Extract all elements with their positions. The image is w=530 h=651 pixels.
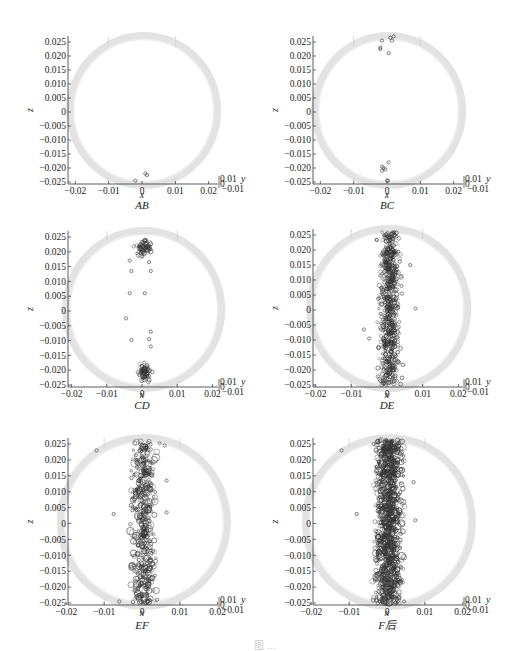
x-axis-label: x <box>384 607 390 618</box>
x-tick-label: −0.02 <box>55 607 77 617</box>
particle-marker <box>376 321 379 324</box>
z-axis-label: z <box>24 108 35 113</box>
particle-marker <box>130 269 133 272</box>
particle-marker <box>400 292 403 295</box>
y-axis-label: y <box>240 376 246 387</box>
particle-marker <box>377 283 381 287</box>
x-tick-label: 0.01 <box>417 607 434 617</box>
z-tick-label: 0.025 <box>290 37 312 47</box>
particle-marker <box>112 512 115 515</box>
y-axis-label: y <box>240 594 246 605</box>
particle-marker <box>128 582 134 588</box>
z-axis-label: z <box>269 520 280 525</box>
particle-marker <box>148 516 151 519</box>
y-depth-tick-label: −0.01 <box>467 605 489 615</box>
x-tick-label: 0.02 <box>204 389 221 399</box>
x-tick-label: 0.02 <box>445 186 462 196</box>
z-tick-label: −0.015 <box>284 149 311 159</box>
z-tick-label: −0.010 <box>284 335 311 345</box>
particle-marker <box>398 257 402 261</box>
particle-marker <box>380 169 383 172</box>
z-tick-label: 0.025 <box>45 37 67 47</box>
particle-marker <box>128 292 131 295</box>
particle-marker <box>414 307 417 310</box>
z-tick-label: 0.005 <box>290 93 312 103</box>
particle-marker <box>165 511 168 514</box>
particle-marker <box>373 540 376 543</box>
particle-marker <box>400 521 405 526</box>
cylinder-ring <box>70 36 218 186</box>
y-depth-tick-label: −0.01 <box>222 605 244 615</box>
z-axis-label: z <box>269 306 280 311</box>
z-tick-label: 0.005 <box>45 503 67 513</box>
particle-marker <box>152 533 155 536</box>
particle-marker <box>387 52 390 55</box>
z-tick-label: 0.010 <box>290 487 312 497</box>
x-tick-label: −0.01 <box>98 186 120 196</box>
z-tick-label: −0.025 <box>284 177 311 187</box>
particle-marker <box>152 512 157 517</box>
panel-de: 0.0250.0200.0150.0100.0050−0.005−0.010−0… <box>269 229 491 412</box>
panel-title: BC <box>380 199 395 211</box>
z-tick-label: 0.020 <box>45 247 67 257</box>
particle-marker <box>401 486 406 491</box>
particle-marker <box>138 362 141 365</box>
z-tick-label: 0.005 <box>45 291 67 301</box>
particle-marker <box>374 448 378 452</box>
x-tick-label: −0.02 <box>61 389 83 399</box>
x-tick-label: 0.01 <box>412 186 429 196</box>
panel-title: F后 <box>377 619 398 631</box>
particle-marker <box>143 361 146 364</box>
z-tick-label: 0 <box>61 306 66 316</box>
particle-marker <box>150 552 153 555</box>
y-axis-label: y <box>485 594 491 605</box>
particle-marker <box>368 337 371 340</box>
particle-marker <box>134 473 137 476</box>
particle-marker <box>381 278 384 281</box>
x-tick-label: −0.01 <box>340 389 362 399</box>
particle-marker <box>132 449 134 451</box>
y-depth-tick-label: −0.01 <box>467 387 489 397</box>
scatter-points <box>125 238 154 384</box>
x-tick-label: −0.01 <box>96 389 118 399</box>
particle-marker <box>397 320 400 323</box>
z-tick-label: −0.020 <box>39 163 66 173</box>
particle-marker <box>362 328 365 331</box>
z-tick-label: −0.005 <box>39 535 66 545</box>
z-tick-label: 0.020 <box>45 455 67 465</box>
particle-marker <box>378 357 381 360</box>
particle-marker <box>130 476 133 479</box>
z-tick-label: −0.005 <box>284 320 311 330</box>
z-tick-label: 0.025 <box>290 439 312 449</box>
panel-title: AB <box>134 199 149 211</box>
scatter-figure: 0.0250.0200.0150.0100.0050−0.005−0.010−0… <box>0 0 530 651</box>
x-tick-label: −0.01 <box>93 607 115 617</box>
x-tick-label: −0.02 <box>305 389 327 399</box>
particle-marker <box>402 455 405 458</box>
z-tick-label: −0.020 <box>39 582 66 592</box>
x-tick-label: 0.01 <box>169 389 186 399</box>
particle-marker <box>152 538 157 543</box>
y-axis-label: y <box>485 173 491 184</box>
particle-marker <box>400 284 403 287</box>
particle-marker <box>414 519 417 522</box>
y-axis-label: y <box>240 173 246 184</box>
z-tick-label: −0.010 <box>284 135 311 145</box>
z-tick-label: 0.025 <box>290 230 312 240</box>
particle-marker <box>376 366 380 370</box>
z-tick-label: 0.005 <box>290 290 312 300</box>
particle-marker <box>384 353 387 356</box>
particle-marker <box>152 495 157 500</box>
z-tick-label: −0.005 <box>39 321 66 331</box>
panel-title: EF <box>134 619 149 631</box>
z-tick-label: 0.010 <box>45 487 67 497</box>
z-tick-label: 0 <box>61 519 66 529</box>
panel-ab: 0.0250.0200.0150.0100.0050−0.005−0.010−0… <box>24 36 246 211</box>
particle-marker <box>130 338 133 341</box>
panel-bc: 0.0250.0200.0150.0100.0050−0.005−0.010−0… <box>269 35 491 211</box>
particle-marker <box>152 569 155 572</box>
z-axis-label: z <box>24 307 35 312</box>
particle-marker <box>374 479 378 483</box>
x-tick-label: 0.02 <box>200 186 217 196</box>
z-tick-label: 0.015 <box>45 471 67 481</box>
